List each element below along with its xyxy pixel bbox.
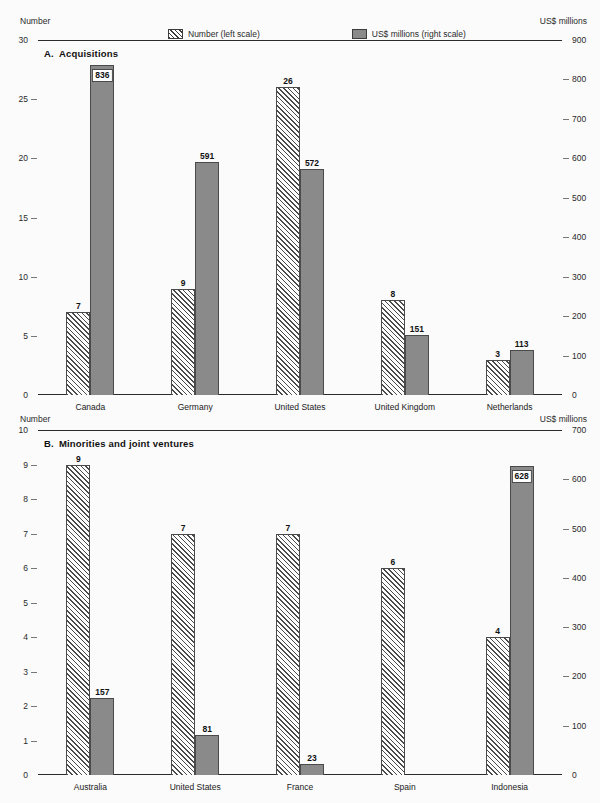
bar-usd-millions[interactable]: 157 xyxy=(90,698,114,775)
bar-value-label: 3 xyxy=(495,349,500,359)
bar-usd-millions[interactable]: 591 xyxy=(195,162,219,395)
bar-group: 3113Netherlands xyxy=(457,40,562,395)
category-label: France xyxy=(287,782,313,792)
panel-b-right-tick-label: 600 xyxy=(572,475,586,484)
bar-group: 9157Australia xyxy=(38,430,143,775)
panel-a-right-tick-label: 500 xyxy=(572,194,586,203)
panel-a-left-tick-label: 25 xyxy=(19,95,28,104)
panel-b-left-tick-label: 3 xyxy=(23,668,28,677)
bar-usd-millions[interactable]: 836 xyxy=(90,65,114,395)
bar-number[interactable]: 3 xyxy=(486,360,510,396)
solid-grey-swatch-icon xyxy=(352,29,367,39)
bar-usd-millions[interactable]: 113 xyxy=(510,350,534,395)
bar-value-label: 9 xyxy=(181,278,186,288)
category-label: Spain xyxy=(394,782,416,792)
legend-label-usd: US$ millions (right scale) xyxy=(372,29,466,39)
bar-value-label: 9 xyxy=(76,454,81,464)
legend-item-number: Number (left scale) xyxy=(168,29,260,39)
panel-b-left-tick-label: 7 xyxy=(23,530,28,539)
panel-b-left-tick xyxy=(31,534,37,535)
panel-a-left-tick xyxy=(31,277,37,278)
panel-b-right-tick-label: 700 xyxy=(572,426,586,435)
category-label: United Kingdom xyxy=(375,402,435,412)
hatched-swatch-icon xyxy=(168,29,183,39)
panel-a-left-tick xyxy=(31,99,37,100)
bar-number[interactable]: 8 xyxy=(381,300,405,395)
bar-number[interactable]: 6 xyxy=(381,568,405,775)
category-label: Indonesia xyxy=(491,782,528,792)
panel-b-left-tick-label: 8 xyxy=(23,495,28,504)
bar-value-label: 157 xyxy=(95,687,109,697)
bar-value-label: 26 xyxy=(283,76,292,86)
bar-usd-millions[interactable]: 81 xyxy=(195,735,219,775)
panel-b-right-tick xyxy=(563,676,569,677)
bar-group: 60Spain xyxy=(352,430,457,775)
panel-a-right-tick-label: 700 xyxy=(572,115,586,124)
bar-value-label: 8 xyxy=(390,289,395,299)
panel-a-right-axis-caption: US$ millions xyxy=(540,16,587,26)
category-label: Netherlands xyxy=(487,402,533,412)
bar-usd-millions[interactable]: 628 xyxy=(510,466,534,776)
category-label: United States xyxy=(274,402,325,412)
legend-label-number: Number (left scale) xyxy=(188,29,260,39)
panel-a-right-tick-label: 800 xyxy=(572,75,586,84)
category-label: United States xyxy=(170,782,221,792)
panel-a-right-tick xyxy=(563,119,569,120)
panel-b-bar-groups: 9157Australia781United States723France60… xyxy=(38,430,562,775)
bar-number[interactable]: 7 xyxy=(276,534,300,776)
category-label: Australia xyxy=(74,782,107,792)
panel-a-right-tick xyxy=(563,316,569,317)
bar-usd-millions[interactable]: 23 xyxy=(300,764,324,775)
bar-value-label: 81 xyxy=(202,724,211,734)
panel-b-left-tick xyxy=(31,706,37,707)
legend-item-usd: US$ millions (right scale) xyxy=(352,29,466,39)
panel-b-right-tick xyxy=(563,529,569,530)
bar-usd-millions[interactable]: 151 xyxy=(405,335,429,395)
panel-a-left-tick-label: 0 xyxy=(23,391,28,400)
panel-b-left-tick-label: 0 xyxy=(23,771,28,780)
bar-group: 26572United States xyxy=(248,40,353,395)
panel-a-right-tick xyxy=(563,356,569,357)
bar-value-label: 572 xyxy=(305,158,319,168)
panel-a-left-tick-label: 30 xyxy=(19,36,28,45)
bar-group: 8151United Kingdom xyxy=(352,40,457,395)
bar-value-label: 836 xyxy=(92,69,112,82)
panel-a-right-tick-label: 600 xyxy=(572,154,586,163)
bar-usd-millions[interactable]: 572 xyxy=(300,169,324,395)
bar-number[interactable]: 7 xyxy=(171,534,195,776)
panel-b-left-tick xyxy=(31,568,37,569)
chart-page: Number (left scale) US$ millions (right … xyxy=(0,0,600,803)
bar-value-label: 151 xyxy=(410,324,424,334)
panel-b-left-tick xyxy=(31,672,37,673)
panel-b-right-tick-label: 100 xyxy=(572,722,586,731)
chart-panel-a: A.Acquisitions 7836Canada9591Germany2657… xyxy=(0,40,600,395)
panel-a-left-tick xyxy=(31,158,37,159)
bar-number[interactable]: 9 xyxy=(171,289,195,396)
panel-b-right-tick xyxy=(563,627,569,628)
bar-pair: 723 xyxy=(276,430,324,775)
chart-legend: Number (left scale) US$ millions (right … xyxy=(168,29,466,39)
bar-number[interactable]: 26 xyxy=(276,87,300,395)
panel-b-left-tick-label: 5 xyxy=(23,599,28,608)
bar-value-label: 4 xyxy=(495,626,500,636)
bar-number[interactable]: 7 xyxy=(66,312,90,395)
panel-a-right-tick xyxy=(563,198,569,199)
panel-b-left-tick xyxy=(31,465,37,466)
bar-group: 9591Germany xyxy=(143,40,248,395)
panel-b-left-tick xyxy=(31,499,37,500)
panel-a-left-tick xyxy=(31,336,37,337)
panel-a-right-tick-label: 100 xyxy=(572,352,586,361)
bar-value-label: 591 xyxy=(200,151,214,161)
panel-b-left-tick-label: 9 xyxy=(23,461,28,470)
panel-a-plot-area: 7836Canada9591Germany26572United States8… xyxy=(38,40,562,395)
panel-b-left-axis-caption: Number xyxy=(20,414,50,424)
panel-a-right-tick-label: 200 xyxy=(572,312,586,321)
panel-a-left-tick xyxy=(31,218,37,219)
panel-a-left-axis-caption: Number xyxy=(20,16,50,26)
bar-pair: 781 xyxy=(171,430,219,775)
panel-b-left-tick xyxy=(31,637,37,638)
panel-b-right-tick xyxy=(563,479,569,480)
bar-number[interactable]: 4 xyxy=(486,637,510,775)
bar-number[interactable]: 9 xyxy=(66,465,90,776)
panel-b-right-tick-label: 0 xyxy=(572,771,577,780)
